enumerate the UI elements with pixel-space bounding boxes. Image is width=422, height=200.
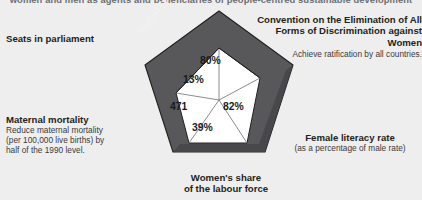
value-label-labour-force: 39% — [192, 122, 213, 133]
axis-label-labour-title-line2: of the labour force — [152, 183, 300, 194]
axis-label-convention-title-line1: Convention on the Elimination of All — [256, 14, 422, 25]
value-label-seats-in-parliament: 13% — [183, 74, 204, 85]
axis-label-convention: Convention on the Elimination of All For… — [256, 14, 422, 59]
axis-label-convention-title-line2: Forms of Discrimination against Women — [256, 25, 422, 48]
axis-label-maternal-subtitle-line2: (per 100,000 live births) by — [6, 135, 151, 145]
axis-label-maternal-subtitle-line1: Reduce maternal mortality — [6, 125, 151, 135]
chart-canvas: women and men as agents and beneficiarie… — [0, 0, 422, 200]
value-label-maternal-mortality: 471 — [170, 101, 187, 112]
axis-label-seats-title: Seats in parliament — [6, 33, 146, 44]
axis-label-seats-in-parliament: Seats in parliament — [6, 33, 146, 44]
axis-label-maternal-mortality: Maternal mortality Reduce maternal morta… — [6, 114, 151, 155]
axis-label-female-literacy: Female literacy rate (as a percentage of… — [278, 132, 422, 153]
axis-label-maternal-subtitle-line3: half of the 1990 level. — [6, 145, 151, 155]
axis-label-maternal-title: Maternal mortality — [6, 114, 151, 125]
value-label-female-literacy: 82% — [223, 101, 244, 112]
axis-label-labour-title-line1: Women's share — [152, 172, 300, 183]
axis-label-convention-subtitle: Achieve ratification by all countries. — [256, 49, 422, 59]
axis-label-labour-force: Women's share of the labour force — [152, 172, 300, 195]
value-label-convention: 80% — [200, 55, 221, 66]
axis-label-literacy-title: Female literacy rate — [278, 132, 422, 143]
axis-label-literacy-subtitle: (as a percentage of male rate) — [278, 143, 422, 153]
